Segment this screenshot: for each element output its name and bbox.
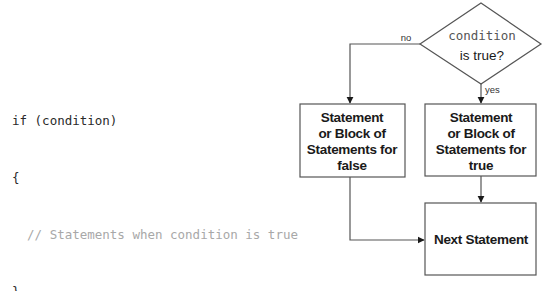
false-box-line-2: or Block of (318, 126, 386, 141)
yes-branch-connector: yes (481, 84, 500, 103)
true-box-line-1: Statement (450, 110, 513, 125)
yes-label: yes (485, 84, 500, 95)
no-label: no (401, 32, 412, 43)
next-box-label: Next Statement (434, 232, 529, 247)
false-box-line-1: Statement (321, 110, 384, 125)
no-branch-connector: no (350, 32, 420, 103)
false-statement-box: Statement or Block of Statements for fal… (300, 104, 405, 177)
true-box-line-3: Statements for (436, 142, 527, 157)
true-statement-box: Statement or Block of Statements for tru… (425, 104, 536, 176)
false-to-next-connector (350, 177, 424, 240)
false-box-line-4: false (337, 158, 367, 173)
flowchart: condition is true? no yes Statement or B… (0, 0, 553, 291)
decision-line-2: is true? (460, 48, 504, 63)
decision-diamond: condition is true? (420, 3, 541, 84)
decision-line-1: condition (448, 28, 516, 43)
true-box-line-4: true (469, 158, 494, 173)
next-statement-box: Next Statement (425, 203, 536, 275)
true-box-line-2: or Block of (447, 126, 515, 141)
false-box-line-3: Statements for (307, 142, 398, 157)
